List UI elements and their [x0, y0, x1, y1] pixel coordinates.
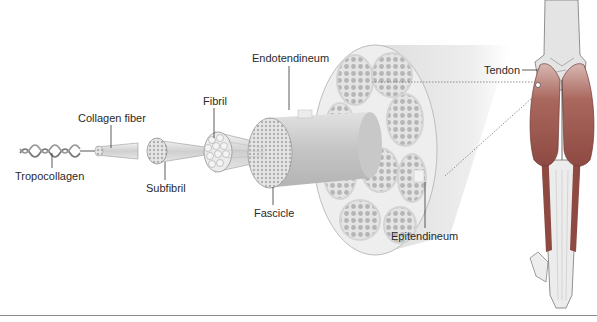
label-fibril: Fibril: [203, 95, 227, 107]
label-subfibril: Subfibril: [146, 182, 186, 194]
label-tendon: Tendon: [484, 64, 520, 76]
label-collagen-fiber: Collagen fiber: [78, 112, 146, 124]
label-epitendineum: Epitendineum: [391, 230, 458, 242]
label-fascicle: Fascicle: [254, 207, 294, 219]
label-endotendineum: Endotendineum: [252, 52, 329, 64]
subfibril-shape: [147, 138, 205, 164]
fascicle-shape: [248, 110, 382, 188]
tendon-structure-diagram: Tropocollagen Collagen fiber Subfibril F…: [0, 0, 597, 322]
lower-leg-illustration: [530, 0, 594, 308]
label-tropocollagen: Tropocollagen: [15, 170, 84, 182]
tropocollagen-helix: [20, 145, 95, 157]
collagen-fiber-shape: [95, 143, 138, 159]
